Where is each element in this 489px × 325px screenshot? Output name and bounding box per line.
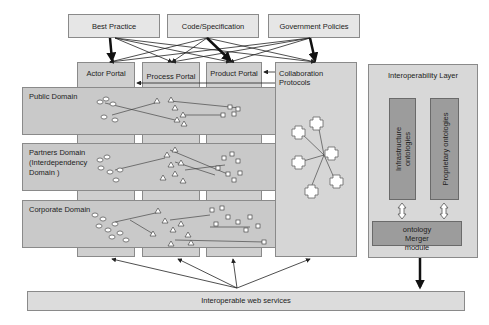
diagram-connectors bbox=[0, 0, 489, 325]
